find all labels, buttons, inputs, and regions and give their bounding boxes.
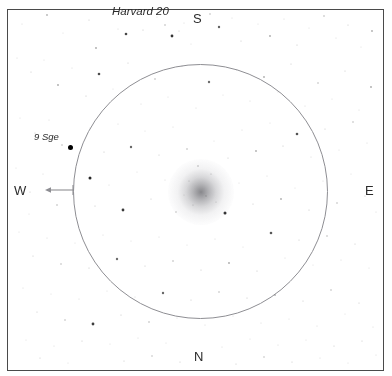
west-direction-arrow (43, 184, 75, 196)
star-label-9-sge: 9 Sge (34, 131, 59, 142)
cluster-glow (168, 159, 234, 225)
star-marker-9-sge (68, 145, 73, 150)
compass-label-south: S (193, 11, 202, 26)
compass-label-north: N (194, 349, 204, 364)
star-chart: Harvard 20 S N E W 9 Sge (0, 0, 392, 376)
compass-label-east: E (365, 183, 374, 198)
compass-label-west: W (14, 183, 27, 198)
page-title: Harvard 20 (112, 5, 169, 17)
